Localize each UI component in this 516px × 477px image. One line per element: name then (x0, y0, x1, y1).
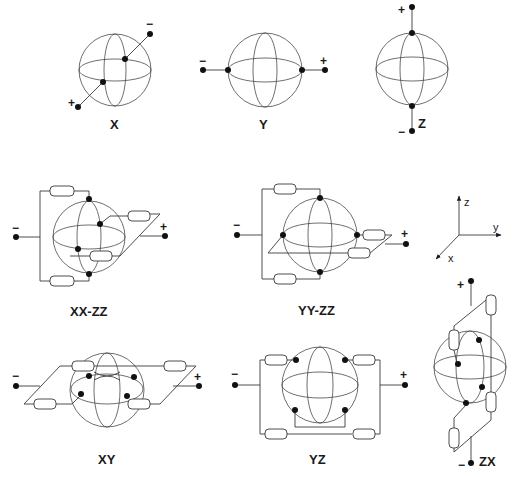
terminal-minus (147, 31, 153, 37)
panel-label: XX-ZZ (70, 304, 108, 319)
resistor-icon (486, 392, 496, 412)
sphere-icon (434, 331, 506, 403)
resistor-icon (486, 295, 496, 315)
panel-label: ZX (479, 454, 496, 469)
panel-zx: + − ZX (434, 278, 506, 472)
resistor-icon (34, 399, 56, 409)
panel-label: XY (98, 452, 116, 467)
minus-sign: − (458, 458, 465, 472)
axis-z-label: z (464, 196, 470, 208)
minus-sign: − (199, 54, 206, 68)
panel-label: YY-ZZ (298, 303, 335, 318)
plus-sign: + (400, 368, 407, 382)
panel-y: − + Y (199, 33, 328, 132)
plus-sign: + (401, 227, 408, 241)
resistor-icon (449, 330, 459, 350)
axis-y-label: y (493, 221, 499, 233)
panel-xx-zz: − + XX-ZZ (12, 186, 168, 319)
resistor-icon (164, 361, 186, 371)
sphere-icon (53, 201, 125, 273)
sphere-icon (376, 33, 448, 105)
coordinate-axes: z y x (436, 196, 501, 264)
minus-sign: − (398, 125, 405, 139)
panel-label: Y (259, 117, 268, 132)
minus-sign: − (12, 221, 19, 235)
resistor-icon (274, 274, 296, 284)
resistor-icon (265, 355, 287, 365)
resistor-icon (72, 361, 94, 371)
resistor-icon (348, 248, 370, 258)
plus-sign: + (194, 370, 201, 384)
resistor-icon (128, 211, 150, 221)
minus-sign: − (12, 369, 19, 383)
resistor-icon (50, 186, 74, 196)
resistor-icon (265, 429, 287, 439)
resistor-icon (128, 399, 150, 409)
plus-sign: + (457, 278, 464, 292)
panel-label: Z (418, 116, 426, 131)
plus-sign: + (68, 96, 75, 110)
electrode-configuration-diagram: + − X − + Y + − Z (0, 0, 516, 477)
terminal-plus (75, 104, 81, 110)
minus-sign: − (231, 367, 238, 381)
sphere-icon (283, 198, 357, 272)
resistor-icon (90, 251, 112, 261)
resistor-icon (50, 276, 74, 286)
resistor-icon (353, 355, 375, 365)
axis-x-label: x (448, 252, 454, 264)
resistor-icon (353, 429, 375, 439)
plus-sign: + (398, 3, 405, 17)
panel-yy-zz: − + YY-ZZ (233, 184, 409, 318)
resistor-icon (449, 428, 459, 448)
panel-x: + − X (68, 17, 153, 132)
panel-label: X (110, 117, 119, 132)
plus-sign: + (160, 220, 167, 234)
minus-sign: − (233, 218, 240, 232)
plus-sign: + (320, 54, 327, 68)
sphere-icon (228, 33, 302, 107)
resistor-icon (363, 230, 385, 240)
resistor-icon (274, 184, 296, 194)
panel-xy: − + XY (12, 353, 202, 467)
minus-sign: − (146, 17, 153, 31)
panel-z: + − Z (376, 3, 448, 139)
panel-yz: − + YZ (231, 347, 408, 467)
panel-label: YZ (309, 452, 326, 467)
